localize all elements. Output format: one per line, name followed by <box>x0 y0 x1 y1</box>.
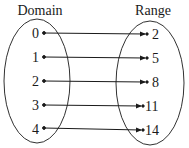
mapping-arrow <box>44 81 145 82</box>
domain-values: 0 1 2 3 4 <box>32 26 39 137</box>
domain-value: 3 <box>32 98 39 113</box>
range-value: 14 <box>145 123 159 138</box>
mapping-diagram: Domain Range 0 1 2 3 4 <box>0 0 189 148</box>
range-value: 8 <box>152 75 159 90</box>
range-value: 5 <box>152 51 159 66</box>
domain-title: Domain <box>17 3 62 18</box>
range-dot <box>142 129 144 131</box>
domain-value: 2 <box>32 74 39 89</box>
mapping-arrow <box>44 105 141 106</box>
range-title: Range <box>135 3 171 18</box>
range-value: 2 <box>152 27 159 42</box>
mapping-arrows <box>43 32 149 132</box>
domain-value: 1 <box>32 50 39 65</box>
range-dot <box>146 81 148 83</box>
range-value: 11 <box>145 99 158 114</box>
range-dot <box>146 33 148 35</box>
domain-value: 4 <box>32 122 39 137</box>
range-dot <box>142 105 144 107</box>
domain-value: 0 <box>32 26 39 41</box>
mapping-arrow <box>44 57 145 58</box>
range-dot <box>146 57 148 59</box>
diagram-canvas: Domain Range 0 1 2 3 4 <box>0 0 189 148</box>
